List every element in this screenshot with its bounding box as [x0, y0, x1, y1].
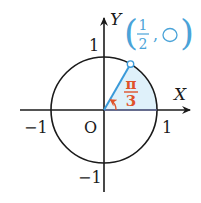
point-marker: [127, 61, 133, 67]
tick-x-pos: 1: [162, 118, 172, 137]
point-label: ( 1 2 , ): [124, 12, 194, 53]
point-x-denominator: 2: [139, 36, 148, 52]
left-paren: (: [124, 12, 138, 53]
y-axis-label: Y: [110, 9, 123, 29]
x-axis-label: X: [172, 84, 187, 104]
angle-denominator: 3: [126, 92, 136, 110]
tick-y-neg: −1: [78, 168, 102, 187]
angle-numerator: π: [126, 75, 137, 93]
origin-label: O: [84, 118, 97, 137]
point-x-numerator: 1: [139, 17, 148, 33]
unit-circle-diagram: π 3 Y X O 1 −1 1 −1 ( 1 2 , ): [0, 0, 201, 203]
tick-x-neg: −1: [24, 118, 48, 137]
point-y-placeholder-icon: [163, 29, 177, 42]
right-paren: ): [180, 12, 194, 53]
point-separator: ,: [153, 25, 158, 44]
tick-y-pos: 1: [89, 36, 99, 55]
